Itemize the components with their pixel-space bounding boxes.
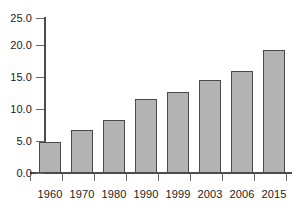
x-axis-tick xyxy=(158,174,159,181)
x-axis-tick xyxy=(286,174,287,181)
x-axis-tick xyxy=(62,174,63,181)
y-axis-tick xyxy=(36,77,44,78)
plot-area: 0.0 5.0 10.0 15.0 20.0 25.0 1960 1970 19… xyxy=(0,0,300,211)
y-axis-label-4: 20.0 xyxy=(0,40,32,51)
y-axis-label-1: 5.0 xyxy=(0,136,32,147)
y-axis-tick xyxy=(36,109,44,110)
y-axis-label-3: 15.0 xyxy=(0,72,32,83)
y-axis-label-0: 0.0 xyxy=(0,168,32,179)
y-axis-tick xyxy=(36,18,44,19)
y-axis-tick xyxy=(36,173,44,174)
bar-2015 xyxy=(263,50,285,173)
bar-2003 xyxy=(199,80,221,173)
x-axis-tick xyxy=(94,174,95,181)
bar-1999 xyxy=(167,92,189,173)
bar-1970 xyxy=(71,130,93,173)
y-axis-label-2: 10.0 xyxy=(0,104,32,115)
y-axis-tick xyxy=(36,45,44,46)
bar-1990 xyxy=(135,99,157,173)
x-axis-label-2015: 2015 xyxy=(254,189,294,200)
x-axis-tick xyxy=(190,174,191,181)
bar-chart: 0.0 5.0 10.0 15.0 20.0 25.0 1960 1970 19… xyxy=(0,0,300,211)
x-axis-tick xyxy=(222,174,223,181)
y-axis-label-5: 25.0 xyxy=(0,13,32,24)
bar-2006 xyxy=(231,71,253,173)
x-axis-tick xyxy=(126,174,127,181)
bar-1960 xyxy=(39,142,61,173)
x-axis-tick xyxy=(254,174,255,181)
bar-1980 xyxy=(103,120,125,173)
x-axis-tick xyxy=(30,174,31,181)
